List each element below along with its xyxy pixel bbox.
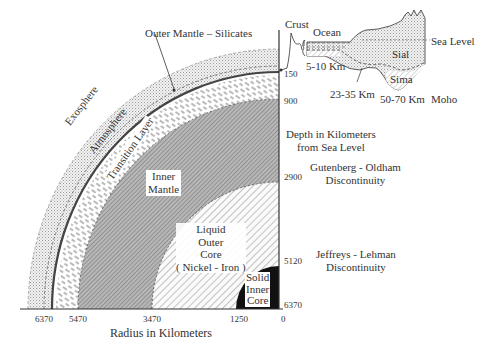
radius-tick-0: 0 [281,313,286,325]
jeffreys-lehman-label: Jeffreys - Lehman Discontinuity [316,248,396,274]
inner-mantle-label: Inner Mantle [146,170,181,196]
depth-axis-title: Depth in Kilometers from Sea Level [286,128,376,154]
depth-tick-6370: 6370 [284,299,302,311]
depth-tick-2900: 2900 [284,171,302,183]
radius-tick-1250: 1250 [230,313,248,325]
mountain-crust-thickness: 50-70 Km [380,93,425,105]
outer-core-label: Liquid Outer Core ( Nickel - Iron ) [176,223,246,273]
depth-tick-900: 900 [284,95,298,107]
radius-tick-3470: 3470 [143,313,161,325]
radius-tick-5470: 5470 [69,313,87,325]
outer-mantle-label: Outer Mantle – Silicates [145,27,252,39]
moho-label: Moho [431,93,457,105]
depth-tick-5120: 5120 [284,255,302,267]
sial-label: Sial [392,48,409,60]
depth-tick-150: 150 [284,68,298,80]
ocean-label: Ocean [313,26,341,38]
ocean-crust-thickness: 5-10 Km [306,60,345,72]
earth-diagram [0,0,488,349]
sea-level-label: Sea Level [431,35,475,47]
radius-tick-6370: 6370 [35,313,53,325]
gutenberg-oldham-label: Gutenberg - Oldham Discontinuity [310,161,401,187]
continental-crust-thickness: 23-35 Km [330,88,375,100]
crust-label: Crust [285,18,309,30]
sima-label: Sima [390,73,413,85]
radius-axis-title: Radius in Kilometers [110,327,212,339]
inner-core-label: Solid Inner Core [245,272,270,307]
